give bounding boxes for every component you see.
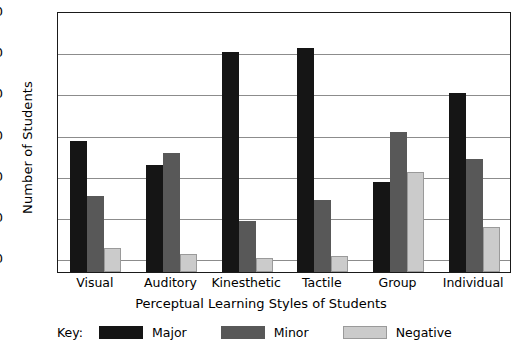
- y-axis-tick-label: 120: [0, 6, 3, 19]
- bar-group: [209, 13, 285, 272]
- bar-visual-negative: [104, 248, 121, 272]
- legend-label: Negative: [396, 325, 452, 340]
- bar-individual-minor: [466, 159, 483, 272]
- legend-item-minor: Minor: [221, 325, 309, 340]
- plot-frame: [57, 12, 511, 273]
- bar-kinesthetic-minor: [239, 221, 256, 272]
- bar-group: [361, 13, 437, 272]
- legend-label: Major: [152, 325, 187, 340]
- bar-kinesthetic-negative: [256, 258, 273, 272]
- y-axis-tick-label: 80: [0, 88, 3, 101]
- legend-swatch-minor: [221, 326, 265, 339]
- legend-key-label: Key:: [57, 325, 83, 340]
- bar-group-inner: [209, 13, 285, 272]
- legend-item-negative: Negative: [343, 325, 452, 340]
- bar-group-inner: [58, 13, 134, 272]
- y-axis-tick-label: 40: [0, 171, 3, 184]
- bar-group-inner: [436, 13, 512, 272]
- legend-label: Minor: [274, 325, 309, 340]
- bar-visual-minor: [87, 196, 104, 272]
- x-axis-tick-label: Group: [360, 277, 436, 290]
- y-axis-tick-label: 100: [0, 47, 3, 60]
- bar-tactile-major: [297, 48, 314, 272]
- bar-group: [58, 13, 134, 272]
- x-axis-tick-label: Individual: [435, 277, 511, 290]
- bar-group-minor: [390, 132, 407, 272]
- y-axis-tick-label: 0: [0, 253, 3, 266]
- bar-group: [436, 13, 512, 272]
- bar-group: [134, 13, 210, 272]
- x-axis-tick-label: Kinesthetic: [208, 277, 284, 290]
- legend-swatch-major: [99, 326, 143, 339]
- bar-individual-negative: [483, 227, 500, 272]
- bar-auditory-negative: [180, 254, 197, 272]
- bar-group-major: [373, 182, 390, 272]
- x-axis-tick-label: Auditory: [133, 277, 209, 290]
- legend-items: MajorMinorNegative: [99, 325, 486, 340]
- bar-group-inner: [285, 13, 361, 272]
- bar-tactile-negative: [331, 256, 348, 272]
- legend-swatch-negative: [343, 326, 387, 339]
- legend-item-major: Major: [99, 325, 187, 340]
- chart-legend: Key: MajorMinorNegative: [0, 325, 522, 340]
- x-axis-tick-label: Tactile: [284, 277, 360, 290]
- x-axis-tick-label: Visual: [57, 277, 133, 290]
- bar-visual-major: [70, 141, 87, 272]
- x-axis-title: Perceptual Learning Styles of Students: [0, 296, 522, 311]
- bar-kinesthetic-major: [222, 52, 239, 272]
- y-axis-tick-label: 20: [0, 212, 3, 225]
- bar-group-negative: [407, 172, 424, 272]
- bar-individual-major: [449, 93, 466, 272]
- bar-auditory-minor: [163, 153, 180, 272]
- y-axis-title: Number of Students: [20, 58, 35, 238]
- bar-group-inner: [361, 13, 437, 272]
- bar-group-inner: [134, 13, 210, 272]
- bar-chart: Number of Students 020406080100120 Visua…: [0, 0, 522, 349]
- bar-auditory-major: [146, 165, 163, 272]
- bar-tactile-minor: [314, 200, 331, 272]
- y-axis-tick-label: 60: [0, 130, 3, 143]
- bar-group: [285, 13, 361, 272]
- plot-area: [58, 13, 510, 272]
